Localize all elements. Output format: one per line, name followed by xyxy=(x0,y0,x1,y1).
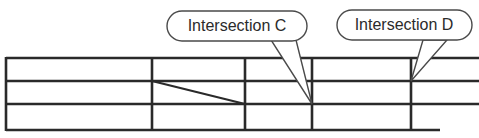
grid-diagonal-lines xyxy=(152,81,245,104)
intersection-diagram: Intersection C Intersection D xyxy=(0,0,479,138)
callout-d-label: Intersection D xyxy=(355,16,454,33)
grid-horizontal-lines xyxy=(6,58,479,130)
callout-d[interactable]: Intersection D xyxy=(337,10,472,81)
callout-c-label: Intersection C xyxy=(188,17,287,34)
callout-c-pointer-tail xyxy=(271,40,312,104)
diagram-canvas: Intersection C Intersection D xyxy=(0,0,479,138)
diagonal-segment-1 xyxy=(152,81,245,104)
callout-d-pointer-tail xyxy=(411,40,447,81)
